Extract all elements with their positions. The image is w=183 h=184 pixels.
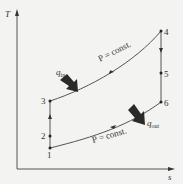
s-axis-arrow-icon — [168, 167, 175, 171]
heat-out-arrow-icon — [128, 104, 145, 125]
point-label-1: 1 — [47, 150, 52, 160]
point-label-2: 2 — [41, 131, 46, 141]
upper-process-label: P = const. — [96, 39, 132, 64]
process-3-4 — [50, 31, 161, 101]
point-label-6: 6 — [164, 98, 169, 108]
point-label-5: 5 — [164, 69, 169, 79]
heat-in-label: qin — [56, 67, 65, 78]
t-axis-label: T — [5, 9, 11, 19]
lower-process-label: P = const. — [91, 126, 128, 145]
heat-out-label: qout — [147, 118, 160, 129]
point-label-4: 4 — [164, 27, 169, 37]
ts-diagram: T s 1 2 3 4 5 6 P = const. P = const. — [0, 0, 183, 184]
point-label-3: 3 — [41, 96, 46, 106]
arrow-down-icon — [159, 48, 163, 53]
arrow-right-icon — [107, 69, 114, 74]
s-axis-label: s — [168, 172, 172, 182]
arrow-up-icon — [48, 114, 52, 119]
axes: T s — [5, 9, 175, 182]
t-axis-arrow-icon — [15, 9, 19, 16]
